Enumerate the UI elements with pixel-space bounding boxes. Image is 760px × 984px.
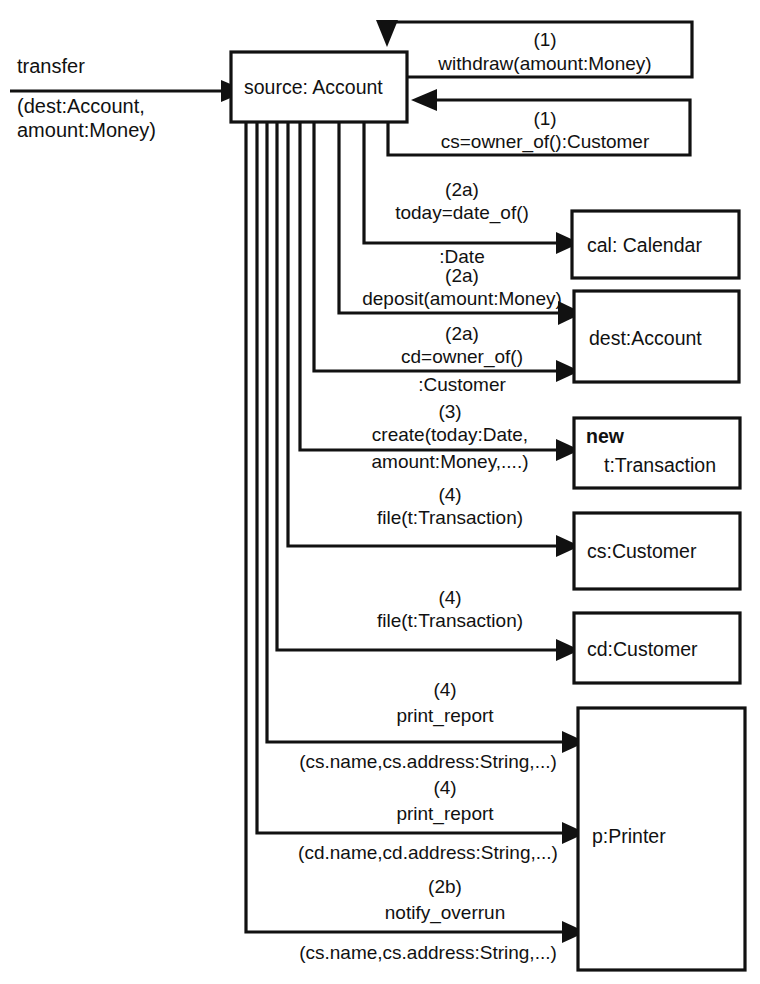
create-name: create(today:Date, (372, 424, 528, 445)
print-report-cd-seq: (4) (433, 777, 456, 798)
transfer-args-line2: amount:Money) (17, 119, 156, 141)
notify-overrun-name: notify_overrun (385, 902, 505, 924)
cd-customer-label: cd:Customer (587, 638, 698, 660)
transfer-args-line1: (dest:Account, (17, 95, 145, 117)
cd-owner-of-name: cd=owner_of() (401, 346, 523, 368)
object-box-cd-customer[interactable]: cd:Customer (574, 613, 740, 683)
print-report-cs-name: print_report (396, 705, 494, 727)
print-report-cs-seq: (4) (433, 679, 456, 700)
file-cs-route (288, 122, 556, 546)
transaction-stereotype: new (586, 425, 625, 447)
external-message-transfer: transfer (dest:Account, amount:Money) (10, 55, 247, 141)
message-2b-notify-overrun: (2b) notify_overrun (cs.name,cs.address:… (246, 122, 586, 963)
file-cs-seq: (4) (438, 484, 461, 505)
file-cd-seq: (4) (438, 587, 461, 608)
print-report-cd-name: print_report (396, 803, 494, 825)
print-report-cs-args: (cs.name,cs.address:String,...) (299, 751, 557, 772)
cd-owner-of-name-line2: :Customer (418, 374, 506, 395)
withdraw-arrowhead (376, 20, 398, 47)
file-cd-name: file(t:Transaction) (377, 610, 523, 631)
deposit-seq: (2a) (445, 265, 479, 286)
transfer-name: transfer (17, 55, 85, 77)
transaction-label: t:Transaction (604, 454, 716, 476)
owner-of-arrowhead (411, 89, 437, 111)
cal-label: cal: Calendar (587, 234, 702, 256)
date-of-name-line2: :Date (439, 246, 484, 267)
message-1-owner-of: (1) cs=owner_of():Customer (388, 89, 690, 155)
date-of-seq: (2a) (445, 179, 479, 200)
cs-customer-label: cs:Customer (587, 540, 697, 562)
printer-label: p:Printer (592, 825, 666, 847)
object-box-cal[interactable]: cal: Calendar (572, 211, 739, 278)
file-cs-name: file(t:Transaction) (377, 507, 523, 528)
print-report-cd-route (257, 122, 562, 833)
diagram-canvas: transfer (dest:Account, amount:Money) (1… (0, 0, 760, 984)
object-box-dest[interactable]: dest:Account (574, 291, 739, 382)
owner-of-name: cs=owner_of():Customer (441, 131, 650, 153)
create-seq: (3) (438, 401, 461, 422)
cd-owner-of-seq: (2a) (445, 323, 479, 344)
print-report-cd-args: (cd.name,cd.address:String,...) (298, 842, 558, 863)
object-box-source[interactable]: source: Account (231, 52, 407, 122)
object-box-cs-customer[interactable]: cs:Customer (574, 513, 740, 589)
message-1-withdraw: (1) withdraw(amount:Money) (376, 20, 692, 77)
create-name-line2: amount:Money,....) (372, 451, 529, 472)
withdraw-name: withdraw(amount:Money) (437, 53, 651, 74)
message-2a-deposit: (2a) deposit(amount:Money) (339, 122, 583, 325)
cd-owner-of-route (314, 122, 556, 371)
dest-label: dest:Account (589, 327, 702, 349)
object-box-transaction[interactable]: new t:Transaction (574, 418, 740, 488)
withdraw-seq: (1) (533, 29, 556, 50)
notify-overrun-args: (cs.name,cs.address:String,...) (299, 942, 557, 963)
notify-overrun-seq: (2b) (428, 876, 462, 897)
deposit-name: deposit(amount:Money) (362, 288, 562, 309)
uml-collaboration-diagram: transfer (dest:Account, amount:Money) (1… (0, 0, 760, 984)
date-of-name: today=date_of() (395, 202, 529, 224)
message-4-file-cs: (4) file(t:Transaction) (288, 122, 580, 557)
source-label: source: Account (244, 76, 383, 98)
object-box-printer[interactable]: p:Printer (578, 708, 745, 970)
owner-of-seq: (1) (533, 108, 556, 129)
